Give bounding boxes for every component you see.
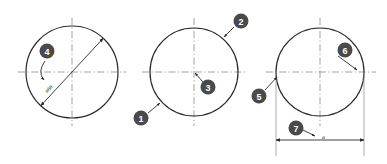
engineering-drawing-svg: ⌀66 ⌀	[0, 0, 387, 164]
left-circle-group: ⌀66	[18, 18, 126, 126]
callout-5-leader	[265, 77, 277, 90]
callout-3-number: 3	[205, 83, 210, 93]
callout-6-number: 6	[342, 46, 347, 56]
callout-5[interactable]: 5	[252, 89, 267, 104]
callout-4[interactable]: 4	[40, 44, 55, 59]
callout-3[interactable]: 3	[201, 80, 216, 95]
callout-7-number: 7	[293, 124, 298, 134]
callout-4-leader	[41, 61, 45, 80]
callout-6[interactable]: 6	[338, 43, 353, 58]
callout-5-number: 5	[256, 92, 261, 102]
callout-2-number: 2	[238, 17, 243, 27]
callout-2-leader	[224, 27, 234, 37]
callout-1-leader	[148, 103, 160, 113]
diameter-dimension-text-left: ⌀66	[43, 83, 53, 94]
callout-7[interactable]: 7	[289, 121, 304, 136]
middle-circle-group	[142, 18, 246, 126]
right-circle-group: ⌀	[265, 18, 376, 156]
callout-1-number: 1	[138, 114, 143, 124]
callout-2[interactable]: 2	[234, 14, 249, 29]
technical-drawing-canvas: ⌀66 ⌀	[0, 0, 387, 164]
callout-3-leader	[195, 73, 203, 82]
callout-4-number: 4	[44, 47, 49, 57]
diameter-dimension-text-right: ⌀	[322, 134, 325, 140]
callout-7-leader	[303, 130, 315, 136]
callout-1[interactable]: 1	[134, 111, 149, 126]
callout-6-leader	[338, 56, 357, 70]
